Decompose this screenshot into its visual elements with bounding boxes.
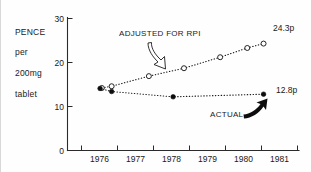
y-axis-tick-labels: 0 10 20 30	[55, 14, 65, 156]
data-point	[109, 89, 114, 94]
line-chart: PENCE per 200mg tablet 0 10 20 30	[1, 0, 311, 172]
series-adjusted-for-rpi	[99, 41, 266, 90]
x-tick-label-1981: 1981	[270, 154, 289, 164]
data-point	[171, 95, 176, 100]
x-tick-label-1978: 1978	[162, 154, 181, 164]
x-tick-label-1980: 1980	[234, 154, 253, 164]
y-tick-label-0: 0	[59, 146, 64, 156]
y-tick-label-20: 20	[55, 58, 65, 68]
end-label-adjusted: 24.3p	[273, 23, 295, 33]
data-point	[98, 86, 103, 91]
y-axis-ticks	[68, 19, 73, 151]
annotation-adjusted-for-rpi: ADJUSTED FOR RPI	[119, 29, 201, 69]
x-axis-ticks	[82, 146, 298, 151]
y-axis-label-line-3: 200mg	[15, 68, 42, 78]
data-point	[109, 84, 114, 89]
data-point	[218, 55, 223, 60]
y-tick-label-30: 30	[55, 14, 65, 24]
series-line	[100, 88, 263, 96]
y-axis-label: PENCE per 200mg tablet	[15, 27, 45, 99]
x-tick-label-1977: 1977	[126, 154, 145, 164]
x-tick-label-1976: 1976	[90, 154, 109, 164]
y-axis-label-line-2: per	[15, 47, 28, 57]
series-layer	[98, 41, 266, 99]
x-tick-label-1979: 1979	[198, 154, 217, 164]
data-point	[146, 74, 151, 79]
y-axis-label-line-4: tablet	[15, 89, 37, 99]
annotation-adjusted-for-rpi-text: ADJUSTED FOR RPI	[119, 29, 201, 38]
adjusted-for-rpi-arrow-icon	[148, 43, 166, 70]
data-point	[261, 41, 266, 46]
data-point	[181, 66, 186, 71]
y-axis-label-line-1: PENCE	[15, 27, 45, 37]
series-actual	[98, 86, 266, 99]
actual-arrow-icon	[244, 99, 268, 119]
annotation-actual: ACTUAL	[210, 99, 268, 120]
end-label-actual: 12.8p	[276, 85, 298, 95]
data-point	[245, 45, 250, 50]
annotation-actual-text: ACTUAL	[210, 110, 244, 119]
data-point	[261, 92, 266, 97]
x-axis-tick-labels: 1976 1977 1978 1979 1980 1981	[90, 154, 289, 164]
chart-figure: PENCE per 200mg tablet 0 10 20 30	[0, 0, 311, 172]
y-tick-label-10: 10	[55, 102, 65, 112]
